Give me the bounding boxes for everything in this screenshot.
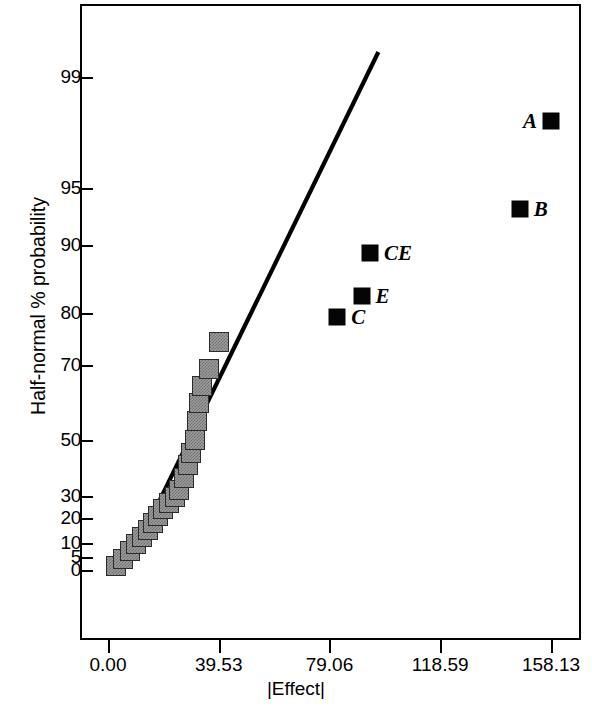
x-axis-tick	[551, 640, 553, 653]
y-axis-title: Half-normal % probability	[28, 156, 48, 456]
y-axis-tick-label: 30	[60, 486, 81, 505]
y-axis-tick-label: 95	[60, 178, 81, 197]
x-axis-tick-label: 118.59	[412, 655, 469, 674]
data-point-significant	[329, 309, 346, 326]
data-point-label: C	[351, 307, 365, 328]
y-axis-tick	[80, 518, 93, 520]
y-axis-tick	[80, 365, 93, 367]
y-axis-tick	[80, 188, 93, 190]
x-axis-title: |Effect|	[0, 679, 592, 698]
x-axis-tick	[219, 640, 221, 653]
x-axis-tick-label: 0.00	[90, 655, 127, 674]
y-axis-tick	[80, 313, 93, 315]
y-axis-tick	[80, 496, 93, 498]
data-point-label: CE	[384, 243, 412, 264]
data-point	[209, 332, 229, 352]
y-axis-tick-label: 99	[60, 67, 81, 86]
y-axis-tick	[80, 557, 93, 559]
data-point	[187, 411, 207, 431]
y-axis-tick-label: 20	[60, 508, 81, 527]
y-axis-tick	[80, 245, 93, 247]
y-axis-tick	[80, 440, 93, 442]
data-point	[199, 359, 219, 379]
y-axis-tick-label: 90	[60, 235, 81, 254]
x-axis-tick	[440, 640, 442, 653]
y-axis-tick	[80, 77, 93, 79]
data-point-label: B	[534, 198, 548, 219]
data-point-label: E	[376, 286, 390, 307]
data-point-significant	[361, 245, 378, 262]
data-point-significant	[353, 288, 370, 305]
y-axis-tick-label: 10	[60, 533, 81, 552]
x-axis-tick	[329, 640, 331, 653]
y-axis-tick	[80, 570, 93, 572]
x-axis-tick-label: 158.13	[522, 655, 580, 674]
y-axis-tick-label: 50	[60, 430, 81, 449]
data-point	[185, 430, 205, 450]
y-axis-tick-label: 70	[60, 355, 81, 374]
half-normal-probability-plot: 05102030507080909599 0.0039.5379.06118.5…	[0, 0, 592, 706]
y-axis-tick	[80, 543, 93, 545]
x-axis-tick-label: 39.53	[195, 655, 243, 674]
data-point-significant	[511, 200, 528, 217]
data-point-significant	[542, 113, 559, 130]
x-axis-tick-label: 79.06	[306, 655, 354, 674]
x-axis-tick	[108, 640, 110, 653]
y-axis-tick-label: 80	[60, 303, 81, 322]
data-point-label: A	[523, 111, 537, 132]
